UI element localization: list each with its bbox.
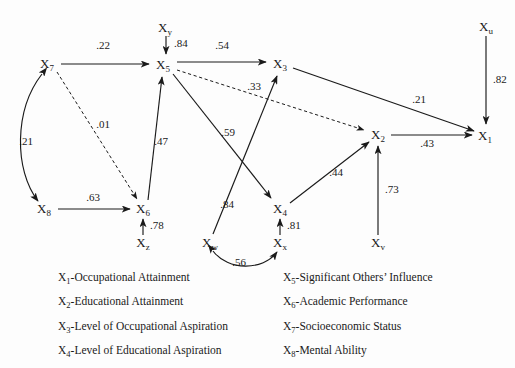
variable-legend: X1-Occupational Attainment X2-Educationa… <box>0 272 515 368</box>
coef-xx-x4: .81 <box>287 219 301 231</box>
node-xx-sub: x <box>282 242 287 252</box>
node-xw: Xw <box>202 235 218 252</box>
coef-x5-x2: .33 <box>247 80 261 92</box>
node-x4: X4 <box>273 201 287 218</box>
coef-x4-x2: .44 <box>329 166 343 178</box>
node-xu-sub: u <box>488 26 493 36</box>
node-x5-sub: 5 <box>165 64 170 74</box>
node-x2-sub: 2 <box>380 134 385 144</box>
edge-x3-x1 <box>293 68 474 131</box>
node-xz-sub: z <box>146 242 150 252</box>
node-xy-sub: y <box>167 27 172 37</box>
legend-x4-text: -Level of Educational Aspiration <box>71 344 222 356</box>
node-x6: X6 <box>136 201 150 218</box>
edges-group <box>20 36 486 266</box>
node-xv-sub: v <box>380 242 385 252</box>
node-x7-sub: 7 <box>49 63 54 73</box>
legend-item-x8: X8-Mental Ability <box>283 345 513 359</box>
legend-item-x3: X3-Level of Occupational Aspiration <box>58 321 283 335</box>
legend-item-x6: X6-Academic Performance <box>283 296 513 310</box>
coef-x5-x3: .54 <box>215 39 229 51</box>
legend-item-x1: X1-Occupational Attainment <box>58 272 283 286</box>
node-x2: X2 <box>371 127 385 144</box>
node-x7: X7 <box>40 56 54 73</box>
legend-x2-text: -Educational Attainment <box>71 295 184 307</box>
legend-column-right: X5-Significant Others’ Influence X6-Acad… <box>283 272 513 368</box>
legend-item-x5: X5-Significant Others’ Influence <box>283 272 513 286</box>
edge-x7-x6 <box>57 72 137 199</box>
coef-x7-x5: .22 <box>96 39 110 51</box>
coef-xv-x2: .73 <box>385 183 399 195</box>
node-x4-sub: 4 <box>282 208 287 218</box>
legend-column-left: X1-Occupational Attainment X2-Educationa… <box>58 272 283 368</box>
node-x3: X3 <box>273 56 287 73</box>
path-diagram-page: .22 .84 .54 .33 .59 .47 .01 .21 .63 .78 … <box>0 0 515 368</box>
coef-xw-x3: .84 <box>220 198 234 210</box>
edge-xw-x3 <box>213 76 277 234</box>
coef-x7-x6: .01 <box>96 118 110 130</box>
node-xu: Xu <box>479 19 493 36</box>
node-xx: Xx <box>273 235 287 252</box>
node-xy: Xy <box>158 20 172 37</box>
legend-item-x7: X7-Socioeconomic Status <box>283 321 513 335</box>
node-x1-sub: 1 <box>487 135 492 145</box>
node-xv: Xv <box>371 235 385 252</box>
coef-x3-x1: .21 <box>412 93 426 105</box>
coef-x8-x6: .63 <box>86 191 100 203</box>
legend-x7-text: -Socioeconomic Status <box>296 320 402 332</box>
coefficient-labels-group: .22 .84 .54 .33 .59 .47 .01 .21 .63 .78 … <box>19 37 507 268</box>
coef-x7-x8: .21 <box>19 135 33 147</box>
legend-x6-text: -Academic Performance <box>296 295 408 307</box>
node-xz: Xz <box>136 235 149 252</box>
node-x8-sub: 8 <box>46 208 51 218</box>
coef-x6-x5: .47 <box>154 135 168 147</box>
edge-x5-x2 <box>177 70 364 130</box>
path-diagram-canvas: .22 .84 .54 .33 .59 .47 .01 .21 .63 .78 … <box>0 0 515 270</box>
coef-xu-x1: .82 <box>493 73 507 85</box>
legend-x8-text: -Mental Ability <box>296 344 367 356</box>
legend-x5-text: -Significant Others’ Influence <box>296 271 433 283</box>
node-x5: X5 <box>156 57 170 74</box>
coef-x5-x4: .59 <box>221 126 235 138</box>
coef-xw-xx: .56 <box>232 256 246 268</box>
node-x1: X1 <box>478 128 492 145</box>
node-x6-sub: 6 <box>145 208 150 218</box>
coef-xy-x5: .84 <box>174 37 188 49</box>
node-x3-sub: 3 <box>282 63 287 73</box>
legend-x3-text: -Level of Occupational Aspiration <box>71 320 228 332</box>
legend-x1-text: -Occupational Attainment <box>71 271 190 283</box>
node-xw-sub: w <box>211 242 218 252</box>
coef-x2-x1: .43 <box>420 137 434 149</box>
coef-xz-x6: .78 <box>150 219 164 231</box>
node-x8: X8 <box>37 201 51 218</box>
legend-item-x4: X4-Level of Educational Aspiration <box>58 345 283 359</box>
legend-item-x2: X2-Educational Attainment <box>58 296 283 310</box>
